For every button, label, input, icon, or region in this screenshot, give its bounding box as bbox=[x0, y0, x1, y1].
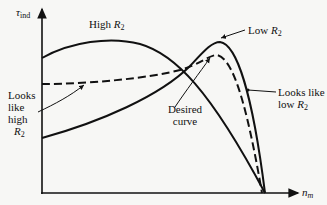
desired-curve-label: Desired curve bbox=[160, 103, 210, 127]
looks-low-dot bbox=[247, 89, 250, 92]
looks-low-pointer bbox=[248, 90, 276, 92]
low-r2-label: Low R2 bbox=[248, 24, 282, 40]
looks-like-low-label: Looks like low R2 bbox=[278, 86, 325, 114]
low-r2-curve bbox=[42, 42, 265, 193]
y-axis-label: τind bbox=[16, 6, 30, 22]
looks-high-pointer bbox=[38, 85, 84, 112]
looks-like-high-label: Looks like high R2 bbox=[8, 89, 36, 141]
high-r2-curve bbox=[42, 40, 265, 193]
low-r2-pointer bbox=[221, 30, 245, 38]
high-r2-label: High R2 bbox=[89, 18, 124, 34]
desired-pointer bbox=[175, 58, 210, 107]
desired-curve bbox=[42, 55, 262, 193]
x-axis-label: nm bbox=[302, 186, 313, 202]
